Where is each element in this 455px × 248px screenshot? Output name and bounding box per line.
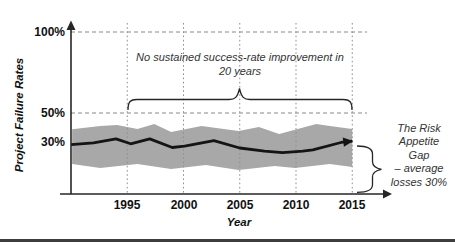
annotation-no-improvement: No sustained success-rate improvement in…: [100, 50, 380, 78]
y-tick-30: 30%: [20, 135, 65, 149]
annotation-risk-gap-line4: – average: [383, 162, 455, 175]
y-tick-50: 50%: [20, 106, 65, 120]
annotation-no-improvement-line2: 20 years: [100, 64, 380, 78]
annotation-risk-gap-line1: The Risk: [383, 122, 455, 135]
annotation-risk-gap-line5: losses 30%: [383, 176, 455, 189]
annotation-risk-gap: The Risk Appetite Gap – average losses 3…: [383, 122, 455, 189]
x-tick-2010: 2010: [274, 198, 318, 212]
y-tick-100: 100%: [20, 25, 65, 39]
x-tick-2015: 2015: [330, 198, 374, 212]
x-tick-2000: 2000: [162, 198, 206, 212]
x-tick-1995: 1995: [105, 198, 149, 212]
failure-rate-figure: Project Failure Rates 100% 50% 30% 1995 …: [0, 0, 455, 248]
annotation-no-improvement-line1: No sustained success-rate improvement in: [100, 50, 380, 64]
annotation-risk-gap-line2: Appetite: [383, 135, 455, 148]
x-tick-2005: 2005: [218, 198, 262, 212]
annotation-risk-gap-line3: Gap: [383, 149, 455, 162]
x-axis-title: Year: [209, 216, 269, 228]
bottom-rule: [0, 239, 455, 242]
